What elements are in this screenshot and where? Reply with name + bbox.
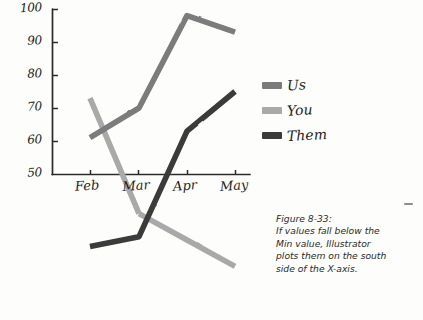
- legend-label-them: Them: [287, 126, 328, 144]
- figure-page: 100 90 80 70 60 50 Feb Mar Apr May Us Yo…: [0, 0, 423, 320]
- y-axis-tick-label: 50: [8, 165, 43, 181]
- legend-item-us: Us: [262, 74, 382, 96]
- x-axis-tick-label: May: [211, 176, 258, 194]
- legend-swatch-us: [262, 82, 282, 89]
- line-chart: 100 90 80 70 60 50 Feb Mar Apr May: [0, 0, 260, 270]
- x-axis-tick-label: Feb: [64, 176, 111, 194]
- figure-caption: Figure 8-33: If values fall below the Mi…: [276, 213, 418, 275]
- series-line-you-south: [139, 214, 235, 267]
- x-axis-tick-label: Apr: [162, 176, 209, 194]
- y-axis-tick-label: 70: [8, 99, 43, 115]
- axis-lines: [52, 9, 250, 175]
- caption-line: Figure 8-33:: [276, 213, 418, 225]
- legend-item-you: You: [262, 99, 382, 121]
- y-axis-tick-label: 60: [8, 132, 43, 148]
- series-lines: [90, 16, 235, 267]
- series-line-us: [90, 16, 235, 138]
- margin-dash-mark: [404, 203, 413, 205]
- legend-label-us: Us: [287, 77, 307, 94]
- caption-line: side of the X-axis.: [276, 263, 418, 275]
- y-axis-tick-label: 90: [8, 33, 43, 49]
- legend-label-you: You: [287, 101, 313, 118]
- caption-line: Min value, Illustrator: [276, 238, 418, 250]
- y-axis-tick-label: 100: [8, 0, 43, 16]
- legend-swatch-you: [262, 107, 282, 114]
- caption-line: If values fall below the: [276, 225, 418, 237]
- caption-line: plots them on the south: [276, 250, 418, 262]
- chart-legend: Us You Them: [262, 74, 382, 149]
- legend-swatch-them: [262, 132, 282, 139]
- x-axis-tick-label: Mar: [113, 176, 160, 194]
- legend-item-them: Them: [262, 124, 382, 146]
- y-axis-tick-label: 80: [8, 66, 43, 82]
